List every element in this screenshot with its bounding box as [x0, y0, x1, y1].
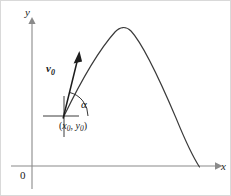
paren-close: ) — [84, 120, 87, 131]
launch-angle-label: α — [81, 99, 87, 110]
origin-label: 0 — [20, 170, 26, 181]
velocity-vector-shaft — [63, 57, 78, 118]
velocity-vector-arrowhead — [74, 51, 83, 64]
y-axis — [28, 17, 35, 189]
velocity-vector-label: v0 — [46, 63, 55, 77]
x-axis — [11, 162, 223, 169]
figure-canvas — [1, 1, 231, 196]
x-axis-label: x — [221, 161, 226, 172]
y-axis-arrowhead — [28, 17, 35, 24]
point-comma: , — [71, 120, 74, 131]
velocity-subscript: 0 — [51, 68, 55, 77]
launch-point-label: (x0, y0) — [59, 121, 87, 133]
y-axis-label: y — [25, 7, 30, 18]
initial-velocity-vector — [63, 51, 82, 118]
projectile-motion-figure: y x 0 v0 α (x0, y0) — [0, 0, 231, 196]
